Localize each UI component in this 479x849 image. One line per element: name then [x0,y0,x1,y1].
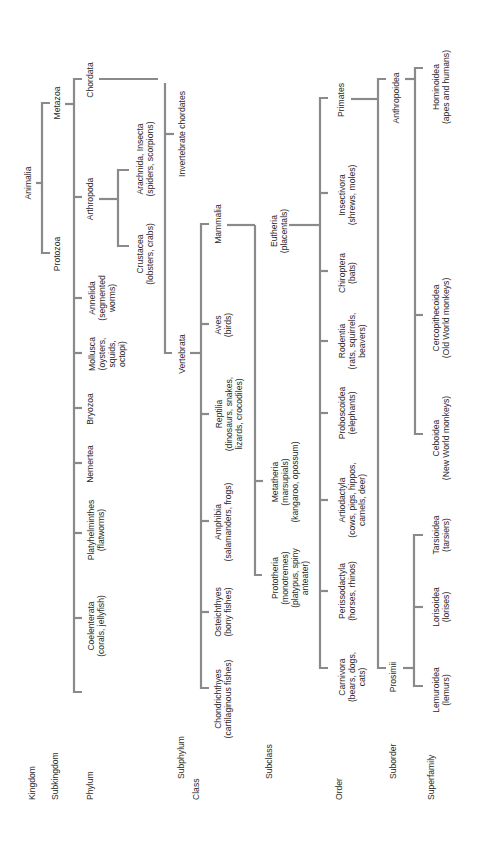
node-label: Metazoa [52,87,62,120]
node-label: Prosimii [388,662,398,693]
level-label-text: Subkingdom [50,752,60,800]
node-label: Annelida (segmented worms) [87,275,117,320]
node-label: Crustacea (lobsters, crabs) [135,223,155,285]
node-label: Primates [336,83,346,117]
node-label: Arthropoda [85,178,95,221]
node-label: Lemuroidea (lemurs) [431,667,451,712]
node-label: Hominoidea (apes and humans) [431,50,451,124]
node-label: Chordata [85,62,95,97]
node-label: Eutheria (placentals) [269,209,289,253]
node-label: Cercopithecoidea (Old World monkeys) [431,278,451,359]
node-label: Insectivora (shrews, moles) [337,165,357,226]
node-label: Invertebrate chordates [177,91,187,177]
level-label-text: Phylum [85,771,95,800]
node-label: Protozoa [52,237,62,271]
level-label-text: Order [334,778,344,800]
node-label: Prototheria (monotremes) (platypus, spin… [270,548,310,608]
node-label: Rodentia (rats, squirrels, beavers) [337,313,367,370]
node-label: Proboscoidea (elephants) [337,387,357,440]
node-label: Ceboidea (New World monkeys) [431,396,451,480]
node-label: Aves (birds) [213,313,233,337]
node-label: Reptilia (dinosaurs, snakes, lizards, cr… [214,377,244,452]
node-label: Mollusca (oysters, squids, octopi) [87,337,127,371]
level-label-text: Subclass [264,744,274,779]
node-label: Artiodactyla (cows, pigs, hippos, camels… [337,462,367,537]
level-label-text: Superfamily [426,755,436,800]
node-label: Arachnida, Insecta (spiders, scorpions) [135,122,155,197]
node-label: Nemertea [85,445,95,483]
level-label-text: Suborder [388,744,398,779]
level-label-text: Subphylum [176,736,186,779]
node-label: Chondrichthyes (cartilaginous fishes) [213,660,233,739]
node-label: Bryozoa [85,393,95,425]
level-label-text: Class [191,779,201,801]
node-label: Anthropoidea [391,72,401,123]
node-label: Perissodactyla (horses, rhinos) [337,561,357,621]
node-label: Lorisoidea (lorises) [431,587,451,627]
node-label: Metatheria (marsupials) (kangaroo, oposs… [270,441,300,522]
node-label: Carnivora (bears, dogs, cats) [337,652,367,702]
node-label: Vertebrata [177,334,187,374]
node-label: Amphibia (salamanders, frogs) [213,483,233,562]
node-label: Osteichthyes (bony fishes) [213,587,233,637]
node-label: Chiroptera (bats) [337,253,357,293]
node-label: Coelenterata (corals, jellyfish) [86,595,106,657]
level-label-text: Kingdom [27,766,37,800]
node-label: Animalia [23,167,33,200]
node-label: Platyhelminthes (flatworms) [86,500,106,561]
node-label: Tarsioidea (tarsiers) [431,515,451,554]
node-label: Mammalia [213,204,223,244]
